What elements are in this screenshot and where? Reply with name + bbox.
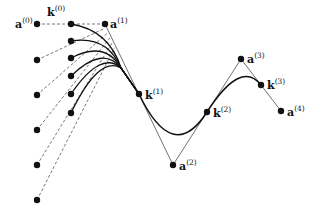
variant-control-point — [34, 197, 40, 203]
variant-control-point — [34, 92, 40, 98]
label-a3: a(3) — [247, 51, 265, 66]
control-point-a0 — [34, 21, 40, 27]
point-labels: a(0)a(1)a(2)a(3)a(4)k(0)k(1)k(2)k(3) — [15, 4, 305, 173]
control-point-a3 — [238, 56, 244, 62]
spline-curve — [71, 51, 139, 94]
control-point-a4 — [278, 108, 284, 114]
spline-diagram: a(0)a(1)a(2)a(3)a(4)k(0)k(1)k(2)k(3) — [0, 0, 319, 212]
spline-curve-main — [139, 76, 261, 134]
label-k3: k(3) — [267, 77, 285, 92]
variant-knot-point — [68, 110, 74, 116]
knot-point-k2 — [204, 109, 210, 115]
diagram-canvas: a(0)a(1)a(2)a(3)a(4)k(0)k(1)k(2)k(3) — [0, 0, 319, 212]
knot-point-k1 — [136, 91, 142, 97]
label-a1: a(1) — [110, 16, 128, 31]
control-polygon-line — [105, 24, 281, 165]
dashed-control-lines — [37, 24, 115, 200]
knot-point-k0 — [68, 21, 74, 27]
variant-control-point — [34, 162, 40, 168]
dashed-line — [37, 48, 115, 200]
label-k0: k(0) — [47, 4, 65, 19]
label-k2: k(2) — [213, 105, 231, 120]
points — [34, 21, 284, 203]
control-point-a1 — [102, 21, 108, 27]
label-a2: a(2) — [179, 158, 197, 173]
control-point-a2 — [170, 162, 176, 168]
variant-control-point — [34, 57, 40, 63]
label-a0: a(0) — [15, 16, 33, 31]
label-a4: a(4) — [287, 104, 305, 119]
label-k1: k(1) — [145, 87, 163, 102]
variant-knot-point — [68, 55, 74, 61]
variant-knot-point — [68, 91, 74, 97]
spline-curves — [71, 24, 261, 135]
knot-point-k3 — [258, 82, 264, 88]
variant-knot-point — [68, 73, 74, 79]
control-polygon — [105, 24, 281, 165]
variant-knot-point — [68, 38, 74, 44]
spline-curve — [71, 24, 139, 94]
variant-control-point — [34, 127, 40, 133]
dashed-line — [37, 43, 112, 165]
